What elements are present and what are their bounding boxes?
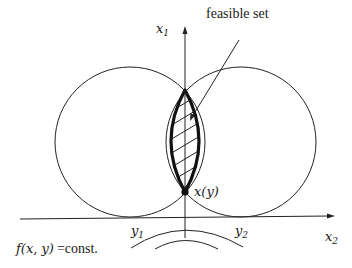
- x2-axis-arrowhead-icon: [327, 214, 335, 219]
- y2-label: y2: [234, 223, 248, 240]
- feasible-set-pointer: [192, 40, 239, 117]
- x1-axis-label: x1: [156, 21, 169, 38]
- x1-axis-arrowhead-icon: [183, 26, 188, 34]
- right-circle: [166, 67, 316, 217]
- point-x-of-y: [181, 188, 188, 195]
- x2-axis-label: x2: [325, 229, 338, 246]
- level-set-label: f(x, y)=const.: [15, 241, 98, 256]
- x2-axis: [20, 216, 330, 219]
- diagram: x1 feasible set x(y) y1 y2 x2 f(x, y)=co…: [0, 0, 352, 268]
- diagram-canvas: x1 feasible set x(y) y1 y2 x2 f(x, y)=co…: [0, 0, 352, 268]
- feasible-set-label: feasible set: [206, 6, 269, 21]
- point-label: x(y): [194, 184, 219, 199]
- level-curve-outer: [131, 230, 243, 248]
- level-curve-inner: [155, 241, 218, 250]
- y1-label: y1: [130, 223, 144, 240]
